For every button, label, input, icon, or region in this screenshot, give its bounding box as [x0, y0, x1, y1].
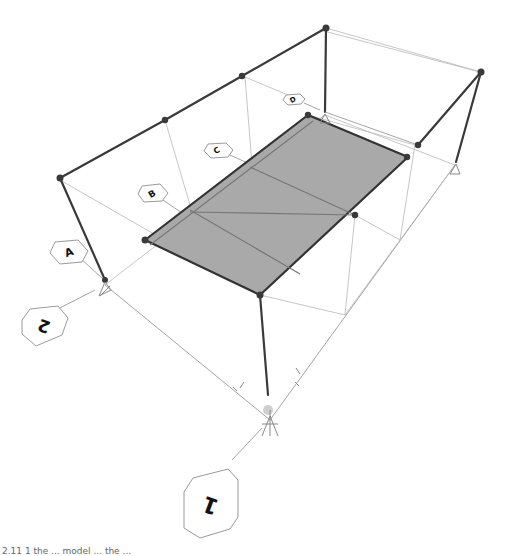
- grid-bubble-1: 1: [184, 469, 238, 538]
- grid-bubble-2: 2: [22, 306, 68, 346]
- figure-caption: 2.11 1 the ... model ... the ...: [2, 546, 131, 556]
- floor-slab: [145, 115, 408, 295]
- grid-bubble-D: D: [283, 94, 305, 105]
- structural-frame-diagram: A B C D 2 1: [0, 0, 509, 556]
- pin-support-icon: [450, 164, 460, 174]
- fixed-support-icon: [262, 410, 278, 436]
- grid-bubble-C: C: [204, 143, 233, 158]
- grid-bubble-A: A: [50, 240, 88, 264]
- grid-bubble-B: B: [138, 184, 168, 202]
